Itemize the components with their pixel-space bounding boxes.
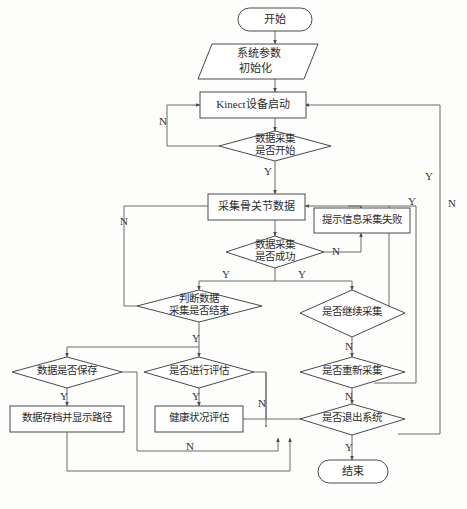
edge-judgeend-no xyxy=(124,206,245,306)
node-archive[interactable]: 数据存档并显示路径 xyxy=(10,406,124,432)
node-start-label: 开始 xyxy=(264,12,286,25)
edge-label-success-yes-right: Y xyxy=(298,268,306,280)
edge-label-reacquire-yes: Y xyxy=(425,170,433,182)
edge-success-yes-right xyxy=(275,281,352,290)
node-save-data[interactable]: 数据是否保存 xyxy=(12,357,122,388)
edge-label-judgeend-no: N xyxy=(120,215,128,227)
node-do-eval[interactable]: 是否进行评估 xyxy=(144,357,254,388)
edge-to-savedata xyxy=(67,347,199,357)
edge-label-reacquire-no: N xyxy=(345,390,353,402)
edge-label-success-no: N xyxy=(332,245,340,257)
node-exit-sys-label: 是否退出系统 xyxy=(322,411,383,423)
node-init-line1: 系统参数 xyxy=(237,46,281,59)
node-fail-msg-label: 提示信息采集失败 xyxy=(322,213,403,225)
node-health-eval[interactable]: 健康状况评估 xyxy=(155,406,243,432)
edge-success-yes-left xyxy=(199,268,275,290)
node-start[interactable]: 开始 xyxy=(238,8,312,31)
node-end[interactable]: 结束 xyxy=(318,460,388,483)
node-acq-begin-line1: 数据采集 xyxy=(255,132,296,144)
edge-label-doeval-yes: Y xyxy=(192,390,200,402)
edge-label-acqbegin-no: N xyxy=(159,115,167,127)
node-archive-label: 数据存档并显示路径 xyxy=(22,411,113,423)
node-init-line2: 初始化 xyxy=(239,61,272,74)
flowchart-canvas: 开始 系统参数 初始化 Kinect设备启动 数据采集 是否开始 采集骨关节数据… xyxy=(0,0,467,509)
node-health-eval-label: 健康状况评估 xyxy=(169,411,230,423)
flowchart-svg: 开始 系统参数 初始化 Kinect设备启动 数据采集 是否开始 采集骨关节数据… xyxy=(0,0,467,509)
node-reacquire-label: 是否重新采集 xyxy=(322,364,383,376)
node-end-label: 结束 xyxy=(342,465,364,477)
node-exit-sys[interactable]: 是否退出系统 xyxy=(300,404,405,435)
edge-label-layer: N Y N Y Y N Y Y Y N N N Y N Y Y N xyxy=(60,115,456,453)
edge-label-continue-no: N xyxy=(345,340,353,352)
edge-success-no xyxy=(324,233,361,252)
node-init[interactable]: 系统参数 初始化 xyxy=(198,44,318,79)
node-kinect-start-label: Kinect设备启动 xyxy=(216,97,289,110)
node-acq-begin-line2: 是否开始 xyxy=(255,144,296,156)
node-kinect-start[interactable]: Kinect设备启动 xyxy=(200,92,306,118)
edge-label-continue-yes: Y xyxy=(408,195,416,207)
node-do-eval-label: 是否进行评估 xyxy=(169,364,230,376)
node-judge-end-line1: 判断数据 xyxy=(179,292,220,304)
node-save-data-label: 数据是否保存 xyxy=(37,364,98,376)
edge-label-archive-no: N xyxy=(186,440,194,452)
node-judge-end[interactable]: 判断数据 采集是否结束 xyxy=(137,290,262,322)
node-fail-msg[interactable]: 提示信息采集失败 xyxy=(314,208,410,233)
node-collect-joint-label: 采集骨关节数据 xyxy=(218,199,295,212)
edge-label-exit-yes: Y xyxy=(345,441,353,453)
edge-label-exit-no: N xyxy=(448,197,456,209)
edge-label-doeval-no: N xyxy=(258,397,266,409)
node-judge-end-line2: 采集是否结束 xyxy=(169,304,230,316)
edge-label-success-yes-left: Y xyxy=(222,268,230,280)
edge-label-acqbegin-yes: Y xyxy=(264,165,272,177)
node-acq-success-line1: 数据采集 xyxy=(255,238,296,250)
node-acq-success-line2: 是否成功 xyxy=(255,251,295,262)
edge-label-judgeend-yes: Y xyxy=(192,332,200,344)
node-collect-joint[interactable]: 采集骨关节数据 xyxy=(208,194,305,220)
node-continue-acq-label: 是否继续采集 xyxy=(322,305,383,317)
node-acq-begin[interactable]: 数据采集 是否开始 xyxy=(219,131,331,161)
node-acq-success[interactable]: 数据采集 是否成功 xyxy=(226,236,324,268)
edge-label-savedata-yes: Y xyxy=(60,390,68,402)
